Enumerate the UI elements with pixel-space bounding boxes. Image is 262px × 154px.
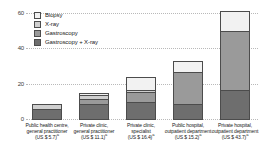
bar-private-clinic-gp[interactable]	[79, 93, 109, 120]
x-label-footnote: a	[246, 132, 248, 137]
x-label-footnote: a	[152, 132, 154, 137]
legend-item-xray[interactable]: X-ray	[34, 20, 98, 28]
bar-segment-biopsy	[220, 11, 250, 31]
bar-segment-gastroscopy-xray	[32, 109, 62, 120]
x-label-public-health-centre-gp: Public health centre, general practition…	[21, 122, 73, 140]
x-label-line3: (US $ 16.4)a	[115, 134, 167, 140]
x-label-line3: (US $ 5.7)a	[21, 134, 73, 140]
legend-label-gastroscopy-xray: Gastroscopy + X-ray	[45, 39, 98, 46]
legend-swatch-gastroscopy-xray	[34, 39, 41, 46]
x-label-line3: (US $ 43.7)a	[209, 134, 261, 140]
x-label-line3: (US $ 15.2)a	[162, 134, 214, 140]
stacked-bar-chart: 60 40 20 0	[0, 0, 262, 154]
bar-public-health-centre-gp[interactable]	[32, 104, 62, 120]
x-label-private-hospital-outpatient: Private hospital, outpatient department …	[209, 122, 261, 140]
bar-segment-gastroscopy-xray	[220, 90, 250, 120]
y-tick-40: 40	[8, 45, 24, 51]
bar-segment-biopsy	[173, 61, 203, 72]
bar-segment-gastroscopy	[220, 31, 250, 90]
bar-segment-gastroscopy	[173, 72, 203, 104]
legend-label-xray: X-ray	[45, 21, 59, 28]
legend-swatch-gastroscopy	[34, 30, 41, 37]
legend-item-gastroscopy[interactable]: Gastroscopy	[34, 29, 98, 37]
x-label-footnote: a	[57, 132, 59, 137]
bar-private-hospital-outpatient[interactable]	[220, 11, 250, 120]
x-label-price: (US $ 43.7)	[222, 134, 246, 140]
bar-segment-gastroscopy-xray	[173, 104, 203, 120]
x-label-private-clinic-gp: Private clinic, general practitioner (US…	[68, 122, 120, 140]
bar-public-hospital-outpatient[interactable]	[173, 61, 203, 120]
x-label-public-hospital-outpatient: Public hospital, outpatient department (…	[162, 122, 214, 140]
x-label-footnote: a	[199, 132, 201, 137]
legend-label-biopsy: Biopsy	[45, 12, 62, 19]
x-label-price: (US $ 5.7)	[35, 134, 57, 140]
x-label-line3: (US $ 11.1)a	[68, 134, 120, 140]
legend-item-biopsy[interactable]: Biopsy	[34, 11, 98, 19]
bar-segment-gastroscopy-xray	[126, 102, 156, 120]
y-tick-60: 60	[8, 10, 24, 16]
x-axis-labels: Public health centre, general practition…	[26, 122, 258, 154]
plot-area: Biopsy X-ray Gastroscopy Gastroscopy + X…	[26, 10, 258, 120]
legend-swatch-xray	[34, 21, 41, 28]
bar-private-clinic-specialist[interactable]	[126, 77, 156, 120]
bar-segment-gastroscopy	[126, 92, 156, 102]
chart-legend: Biopsy X-ray Gastroscopy Gastroscopy + X…	[34, 11, 98, 46]
x-label-footnote: a	[105, 132, 107, 137]
x-label-price: (US $ 11.1)	[81, 134, 105, 140]
bar-segment-gastroscopy-xray	[79, 104, 109, 120]
legend-item-gastroscopy-xray[interactable]: Gastroscopy + X-ray	[34, 38, 98, 46]
x-label-price: (US $ 15.2)	[175, 134, 199, 140]
legend-swatch-biopsy	[34, 12, 41, 19]
x-label-price: (US $ 16.4)	[128, 134, 152, 140]
x-label-private-clinic-specialist: Private clinic, specialist (US $ 16.4)a	[115, 122, 167, 140]
y-tick-20: 20	[8, 81, 24, 87]
legend-label-gastroscopy: Gastroscopy	[45, 30, 78, 37]
bar-segment-biopsy	[126, 77, 156, 90]
